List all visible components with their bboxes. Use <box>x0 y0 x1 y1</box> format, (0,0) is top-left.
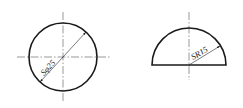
hemisphere-figure: SR15 <box>152 12 226 80</box>
hemisphere-radius-label: SR15 <box>189 44 210 62</box>
sphere-figure: Sφ25 <box>17 12 110 102</box>
sphere-diameter-label: Sφ25 <box>38 58 57 78</box>
drawing-canvas: Sφ25 SR15 <box>0 0 243 108</box>
